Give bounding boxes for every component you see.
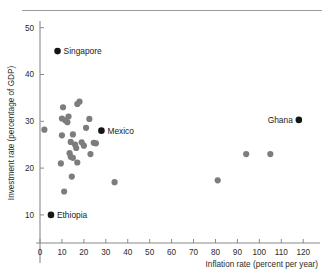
x-tick-label: 70 xyxy=(189,248,199,257)
data-point xyxy=(87,151,93,157)
data-point xyxy=(111,179,117,185)
x-tick-label: 110 xyxy=(275,248,288,257)
x-tick-label: 10 xyxy=(57,248,67,257)
data-point xyxy=(58,160,64,166)
data-point xyxy=(81,143,87,149)
x-tick-label: 120 xyxy=(296,248,310,257)
data-point xyxy=(70,131,76,137)
data-point xyxy=(69,173,75,179)
data-point xyxy=(61,188,67,194)
data-point xyxy=(73,145,79,151)
x-tick-label: 60 xyxy=(167,248,177,257)
x-tick-label: 100 xyxy=(253,248,267,257)
data-point xyxy=(76,99,82,105)
point-label-singapore: Singapore xyxy=(64,46,103,56)
x-tick-label: 20 xyxy=(79,248,89,257)
x-tick-label: 0 xyxy=(38,248,43,257)
data-point xyxy=(64,119,70,125)
data-point-mexico xyxy=(98,127,105,134)
point-label-mexico: Mexico xyxy=(107,126,134,136)
data-point xyxy=(243,151,249,157)
y-tick-label: 40 xyxy=(25,70,35,79)
data-point-ethiopia xyxy=(48,212,55,219)
data-point xyxy=(41,127,47,133)
y-tick-label: 30 xyxy=(25,117,35,126)
x-tick-label: 40 xyxy=(123,248,133,257)
data-point xyxy=(65,114,71,120)
x-tick-label: 90 xyxy=(233,248,243,257)
point-label-ethiopia: Ethiopia xyxy=(57,210,88,220)
data-point xyxy=(93,140,99,146)
data-point xyxy=(70,155,76,161)
data-point-ghana xyxy=(296,117,303,124)
x-tick-label: 80 xyxy=(211,248,221,257)
data-point xyxy=(215,177,221,183)
x-tick-label: 30 xyxy=(101,248,111,257)
x-axis-title: Inflation rate (percent per year) xyxy=(206,260,319,269)
y-tick-label: 50 xyxy=(25,24,35,33)
y-tick-label: 20 xyxy=(25,164,35,173)
point-label-ghana: Ghana xyxy=(268,115,293,125)
plot-canvas: 10203040500102030405060708090100110120In… xyxy=(0,0,332,277)
data-point xyxy=(59,132,65,138)
data-point xyxy=(86,116,92,122)
y-axis-title: Investment rate (percentage of GDP) xyxy=(7,66,16,201)
data-point xyxy=(267,151,273,157)
data-point xyxy=(74,159,80,165)
y-tick-label: 10 xyxy=(25,211,35,220)
data-point-singapore xyxy=(54,48,61,55)
x-tick-label: 50 xyxy=(145,248,155,257)
scatter-plot-figure: 10203040500102030405060708090100110120In… xyxy=(0,0,332,277)
data-point xyxy=(83,125,89,131)
data-point xyxy=(60,104,66,110)
